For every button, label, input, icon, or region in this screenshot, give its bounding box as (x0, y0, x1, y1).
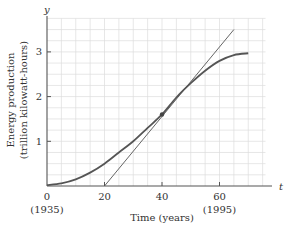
x-axis-label: Time (years) (130, 212, 194, 223)
x-tick-sublabel: (1995) (203, 204, 236, 215)
y-axis-label: Energy production (trillion kilowatt-hou… (5, 41, 29, 159)
y-tick-label: 1 (36, 136, 42, 147)
y-axis-variable: y (43, 4, 50, 15)
axes: 0(1935)204060(1995)123 (30, 16, 272, 215)
y-axis-label-line2: (trillion kilowatt-hours) (18, 41, 29, 159)
tangent-point (160, 112, 164, 116)
x-tick-label: 60 (213, 191, 226, 202)
y-tick-label: 2 (36, 91, 42, 102)
y-axis-label-line1: Energy production (5, 52, 16, 148)
chart: 0(1935)204060(1995)123 y t Time (years) … (0, 0, 288, 231)
y-tick-label: 3 (36, 46, 42, 57)
x-tick-label: 0 (44, 191, 50, 202)
grid (47, 18, 266, 186)
x-axis-variable: t (279, 181, 284, 192)
x-tick-sublabel: (1935) (30, 204, 63, 215)
x-tick-label: 20 (98, 191, 111, 202)
x-tick-label: 40 (156, 191, 169, 202)
